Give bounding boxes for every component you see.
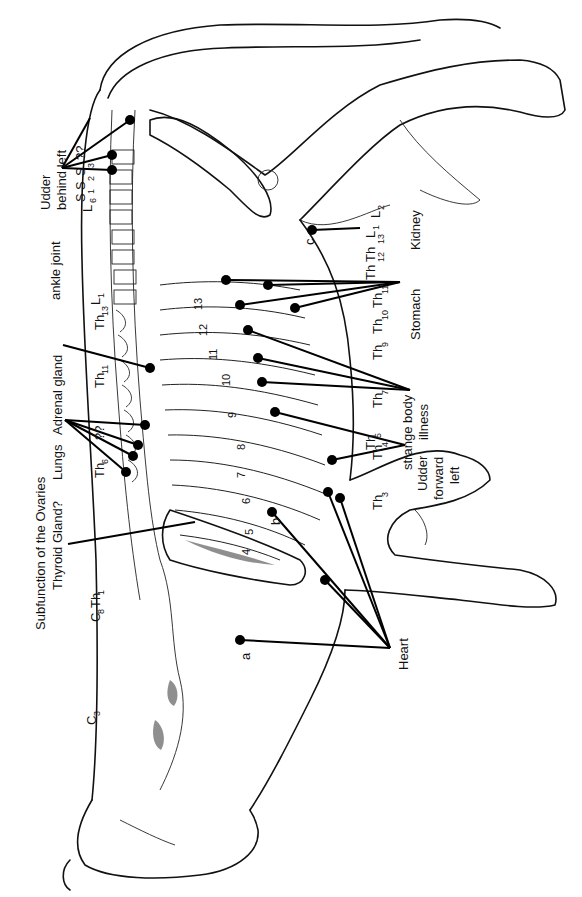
svg-text:4: 4 (240, 549, 252, 555)
svg-text:7: 7 (235, 472, 247, 478)
ribs (150, 117, 328, 585)
svg-text:11: 11 (100, 365, 110, 374)
diagram-canvas: Udder behind left ankle joint Adrenal gl… (0, 0, 582, 897)
label-ovaries: Subfunction of the Ovaries (33, 476, 48, 630)
cow-diagram: Udder behind left ankle joint Adrenal gl… (0, 0, 582, 897)
svg-text:Th: Th (92, 463, 107, 478)
svg-text:3: 3 (86, 163, 96, 168)
svg-text:7: 7 (380, 390, 390, 395)
label-udder-behind: Udder (38, 174, 53, 210)
svg-text:13: 13 (100, 306, 110, 316)
svg-text:6: 6 (100, 459, 110, 464)
svg-text:Th: Th (363, 265, 378, 280)
svg-text:6: 6 (88, 198, 98, 203)
label-stomach: Stomach (408, 289, 423, 340)
label-forward: forward (431, 457, 446, 500)
label-udder-behind-2: behind left (54, 150, 69, 210)
svg-text:5: 5 (373, 433, 383, 438)
svg-text:3: 3 (92, 711, 102, 716)
svg-text:3: 3 (380, 492, 390, 497)
svg-text:9: 9 (380, 342, 390, 347)
leader-lines (62, 118, 410, 648)
label-kidney: Kidney (408, 210, 423, 250)
svg-text:13: 13 (192, 298, 204, 310)
svg-text:10: 10 (220, 374, 232, 386)
svg-text:13: 13 (376, 234, 386, 244)
svg-text:11: 11 (380, 285, 390, 294)
svg-text:4: 4 (380, 442, 390, 447)
svg-text:L: L (368, 211, 383, 218)
label-ankle-joint: ankle joint (48, 241, 63, 300)
svg-text:8: 8 (96, 609, 106, 614)
svg-text:Th: Th (370, 319, 385, 334)
svg-text:??: ?? (92, 426, 107, 440)
svg-text:9: 9 (226, 412, 238, 418)
svg-text:??: ?? (73, 146, 88, 160)
svg-text:6: 6 (240, 498, 252, 504)
svg-text:11: 11 (207, 349, 219, 360)
label-adrenal-gland: Adrenal gland (50, 355, 65, 435)
svg-text:12: 12 (376, 252, 386, 262)
rib-numbers: 13 12 11 10 9 8 7 6 5 4 (192, 298, 255, 555)
label-lungs: Lungs (50, 444, 65, 480)
label-udder-forward: Udder (415, 455, 430, 491)
label-thyroid: Thyroid Gland? (50, 501, 65, 590)
point-c: c (302, 238, 317, 245)
label-left: left (447, 466, 462, 484)
cow-body-outline (63, 19, 565, 890)
svg-text:12: 12 (197, 324, 209, 336)
svg-text:1: 1 (96, 293, 106, 298)
svg-text:L: L (80, 205, 95, 212)
label-illness: illness (416, 403, 431, 440)
svg-text:2: 2 (376, 205, 386, 210)
svg-text:8: 8 (235, 444, 247, 450)
label-heart: Heart (396, 638, 411, 670)
svg-text:Th: Th (92, 315, 107, 330)
point-a: a (238, 652, 253, 660)
svg-text:1: 1 (371, 225, 381, 230)
svg-text:Th: Th (92, 373, 107, 388)
label-strange-body: strange body (400, 394, 415, 470)
svg-text:S: S (73, 181, 88, 190)
svg-text:C: C (84, 716, 99, 725)
svg-text:Th: Th (370, 293, 385, 308)
point-b: b (268, 518, 283, 525)
svg-text:5: 5 (243, 529, 255, 535)
svg-text:10: 10 (380, 310, 390, 320)
svg-text:1: 1 (96, 590, 106, 595)
